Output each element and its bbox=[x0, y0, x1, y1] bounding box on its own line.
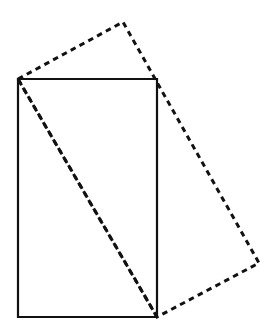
figure-canvas bbox=[0, 0, 280, 336]
geometry-figure-svg bbox=[0, 0, 280, 336]
